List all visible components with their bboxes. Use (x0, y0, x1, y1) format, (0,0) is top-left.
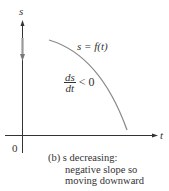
origin-label: 0 (12, 142, 18, 154)
derivative-relation: < 0 (79, 75, 95, 90)
derivative-denominator: dt (65, 83, 76, 93)
motion-down-arrow-icon (20, 54, 25, 61)
caption-line-2: negative slope so (48, 164, 144, 176)
derivative-inequality: ds dt < 0 (64, 72, 95, 93)
x-axis-arrowhead-icon (152, 134, 158, 138)
figure-caption: (b) s decreasing: negative slope so movi… (48, 152, 144, 187)
caption-line-3: moving downward (48, 175, 144, 187)
derivative-fraction: ds dt (64, 72, 76, 93)
curve-label: s = f(t) (77, 40, 108, 52)
y-axis-label: s (19, 5, 23, 17)
x-axis-label: t (160, 129, 163, 141)
caption-line-1: (b) s decreasing: (48, 152, 144, 164)
y-axis-arrowhead-icon (21, 20, 25, 26)
